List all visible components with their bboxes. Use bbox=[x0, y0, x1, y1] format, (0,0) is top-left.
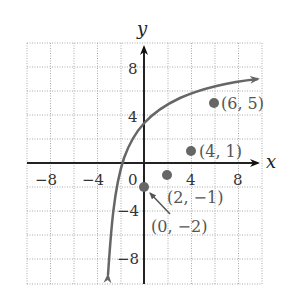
point-2-m1 bbox=[162, 170, 172, 180]
svg-text:8: 8 bbox=[233, 171, 243, 189]
svg-text:4: 4 bbox=[186, 171, 196, 189]
svg-text:−8: −8 bbox=[35, 171, 57, 189]
svg-text:−8: −8 bbox=[117, 250, 139, 268]
svg-text:−4: −4 bbox=[117, 202, 139, 220]
svg-text:4: 4 bbox=[128, 108, 138, 126]
svg-text:0: 0 bbox=[128, 171, 138, 189]
svg-text:(2, −1): (2, −1) bbox=[167, 188, 223, 207]
svg-text:−4: −4 bbox=[82, 171, 104, 189]
y-axis-label: y bbox=[136, 18, 148, 39]
point-6-5 bbox=[209, 98, 219, 108]
svg-text:8: 8 bbox=[128, 60, 138, 78]
x-tick-labels: −8 −4 0 4 8 bbox=[35, 171, 243, 189]
x-axis-label: x bbox=[266, 151, 276, 172]
point-4-1 bbox=[186, 146, 196, 156]
coordinate-plane: x y −8 −4 0 4 8 8 4 −4 −8 (6, 5) (4, 1) … bbox=[0, 0, 297, 306]
svg-text:(4, 1): (4, 1) bbox=[199, 142, 242, 161]
svg-text:(0, −2): (0, −2) bbox=[151, 217, 207, 236]
svg-text:(6, 5): (6, 5) bbox=[221, 94, 264, 113]
point-0-m2 bbox=[139, 182, 149, 192]
